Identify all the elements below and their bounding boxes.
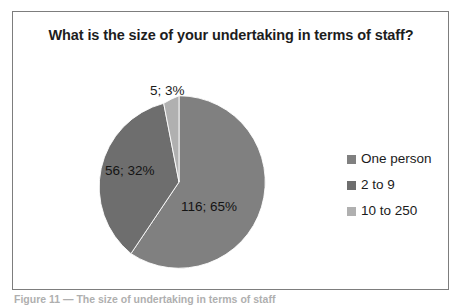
pie-chart <box>91 94 267 270</box>
figure-caption: Figure 11 — The size of undertaking in t… <box>14 294 444 305</box>
legend-swatch-icon <box>347 181 356 190</box>
legend-label-10-to-250: 10 to 250 <box>361 204 417 218</box>
legend-label-2-to-9: 2 to 9 <box>361 178 395 192</box>
data-label-10-to-250: 5; 3% <box>150 83 185 98</box>
legend-item-one-person[interactable]: One person <box>347 146 447 172</box>
chart-legend: One person 2 to 9 10 to 250 <box>347 146 447 224</box>
figure-container: What is the size of your undertaking in … <box>0 0 463 305</box>
legend-item-10-to-250[interactable]: 10 to 250 <box>347 198 447 224</box>
legend-item-2-to-9[interactable]: 2 to 9 <box>347 172 447 198</box>
legend-swatch-icon <box>347 155 356 164</box>
data-label-one-person: 116; 65% <box>181 199 237 214</box>
plot-area: 5; 3% 56; 32% 116; 65% One person 2 to 9… <box>13 12 450 291</box>
data-label-2-to-9: 56; 32% <box>105 163 155 178</box>
legend-swatch-icon <box>347 207 356 216</box>
legend-label-one-person: One person <box>361 152 432 166</box>
chart-frame: What is the size of your undertaking in … <box>12 11 449 290</box>
